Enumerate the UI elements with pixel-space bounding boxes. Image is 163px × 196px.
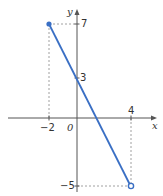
tick-label-7: 7 bbox=[81, 19, 87, 29]
y-axis bbox=[75, 9, 80, 192]
open-endpoint-circle bbox=[128, 183, 133, 188]
origin-label: 0 bbox=[67, 123, 73, 133]
tick-label-neg2: −2 bbox=[40, 123, 55, 133]
graph bbox=[0, 0, 163, 196]
x-axis-label: x bbox=[152, 121, 158, 131]
tick-label-4: 4 bbox=[128, 106, 134, 116]
tick-label-3: 3 bbox=[80, 73, 86, 83]
line-segment bbox=[49, 24, 130, 184]
x-axis bbox=[8, 116, 157, 121]
closed-endpoint-dot bbox=[46, 21, 51, 26]
tick-label-neg5: −5 bbox=[60, 181, 75, 191]
y-axis-label: y bbox=[67, 7, 73, 17]
y-axis-arrow-icon bbox=[75, 9, 80, 15]
